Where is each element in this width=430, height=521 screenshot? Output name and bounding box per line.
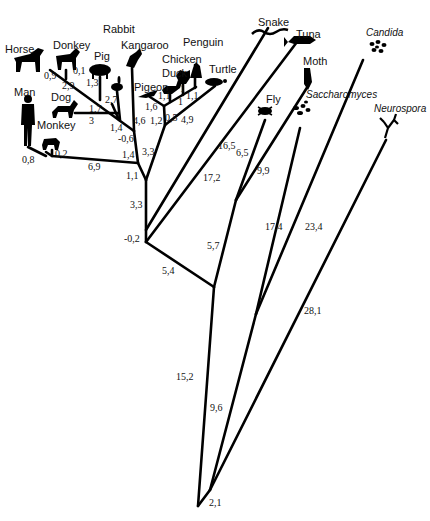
label-fly: Fly xyxy=(266,94,281,105)
length-animal-stem: 15,2 xyxy=(176,372,194,382)
label-saccharomyces: Saccharomyces xyxy=(306,90,377,100)
length-horse-donkey: 2,9 xyxy=(62,81,75,91)
turtle-icon xyxy=(205,78,227,86)
length-candida: 23,4 xyxy=(305,222,323,232)
length-neurospora: 28,1 xyxy=(304,306,322,316)
label-kangaroo: Kangaroo xyxy=(121,40,169,51)
length-primate-stem: 1,4 xyxy=(122,150,135,160)
length-turtle: 4,9 xyxy=(181,115,194,125)
length-dog-stem: 3 xyxy=(89,116,94,126)
length-insect-stem: 5,7 xyxy=(207,241,220,251)
length-vertebrate-stem: 5,4 xyxy=(162,266,175,276)
length-man: 0,8 xyxy=(22,155,35,165)
label-moth: Moth xyxy=(303,56,327,67)
length-yeast-stem: 9,6 xyxy=(210,403,223,413)
candida-icon xyxy=(370,40,387,53)
length-chicken: 1 xyxy=(180,84,185,94)
length-galliform-stem: 0,5 xyxy=(165,113,178,123)
snake-icon xyxy=(252,29,288,34)
length-dog: 1,7 xyxy=(89,104,102,114)
neurospora-icon xyxy=(380,114,398,138)
length-rabbit: 2,7 xyxy=(105,95,118,105)
label-man: Man xyxy=(14,87,35,98)
label-penguin: Penguin xyxy=(183,37,223,48)
label-snake: Snake xyxy=(258,17,289,28)
length-tuna: 17,2 xyxy=(203,173,221,183)
label-duck: Duck xyxy=(162,68,187,79)
length-kangaroo: 4,6 xyxy=(133,116,146,126)
length-pigeon: 1,6 xyxy=(145,102,158,112)
length-monkey: 0,2 xyxy=(55,149,68,159)
label-neurospora: Neurospora xyxy=(374,104,426,114)
label-turtle: Turtle xyxy=(209,64,237,75)
branch-placental-stem xyxy=(134,131,138,163)
kangaroo-icon xyxy=(126,48,142,68)
length-snake-stem: -0,2 xyxy=(124,234,140,244)
label-tuna: Tuna xyxy=(296,29,321,40)
branch-neurospora xyxy=(210,140,386,490)
label-monkey: Monkey xyxy=(37,120,76,131)
length-donkey: 0,1 xyxy=(73,66,86,76)
length-pig: 1,3 xyxy=(86,78,99,88)
branch-animal-stem xyxy=(198,287,214,506)
man-icon xyxy=(21,95,35,146)
label-chicken: Chicken xyxy=(162,54,202,65)
saccharomyces-icon xyxy=(293,101,311,116)
length-snake: 16,5 xyxy=(218,141,236,151)
fly-icon xyxy=(258,107,272,115)
branch-vertebrate-stem xyxy=(146,242,214,287)
length-primate: 6,9 xyxy=(88,162,101,172)
length-moth: 9,9 xyxy=(257,166,270,176)
length-mammal-stem: 1,1 xyxy=(126,171,139,181)
length-placental-stem: -0,6 xyxy=(118,134,134,144)
length-penguin: 1,1 xyxy=(186,91,199,101)
phylogenetic-tree xyxy=(0,0,430,521)
length-fly: 6,5 xyxy=(236,148,249,158)
label-horse: Horse xyxy=(5,44,34,55)
branch-mammal-stem xyxy=(138,163,146,180)
label-rabbit: Rabbit xyxy=(103,24,135,35)
rabbit-icon xyxy=(111,76,123,91)
length-bird-reptile-stem: 3,3 xyxy=(142,147,155,157)
length-horse: 0,9 xyxy=(44,71,57,81)
length-fungi-stem: 2,1 xyxy=(209,498,222,508)
length-chicken-penguin: 1 xyxy=(178,97,183,107)
length-duck: 1,1 xyxy=(158,91,171,101)
label-pig: Pig xyxy=(94,51,110,62)
length-saccharomyces: 17,4 xyxy=(265,222,283,232)
length-bird-stem: 1,2 xyxy=(150,116,163,126)
length-ungulate-stem: 1,4 xyxy=(110,123,123,133)
label-donkey: Donkey xyxy=(53,40,90,51)
moth-icon xyxy=(304,68,312,90)
length-amniote-stem: 3,3 xyxy=(130,200,143,210)
label-dog: Dog xyxy=(51,92,71,103)
label-candida: Candida xyxy=(366,28,403,38)
